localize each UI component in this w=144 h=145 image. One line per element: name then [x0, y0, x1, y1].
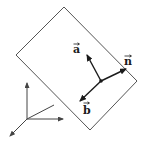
label-b-text: b	[83, 104, 91, 117]
plane-diagram: a n b	[0, 0, 144, 145]
vector-n-arrow	[101, 69, 126, 81]
axis-diagonal-line	[27, 105, 54, 119]
vector-b-arrow	[80, 81, 101, 101]
vector-n-label: n	[124, 55, 132, 68]
vector-a-arrow	[87, 55, 101, 81]
vector-a-label: a	[73, 43, 80, 56]
axis-down-left-arrow	[10, 119, 27, 136]
plane-outline	[16, 7, 137, 130]
label-a-text: a	[73, 43, 80, 56]
vector-group	[80, 55, 126, 101]
vector-b-label: b	[83, 102, 91, 117]
coordinate-axes	[10, 83, 63, 136]
label-n-text: n	[124, 55, 132, 68]
origin-point	[99, 79, 103, 83]
